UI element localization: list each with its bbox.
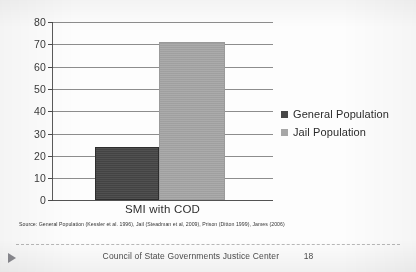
- y-axis-labels: 80 70 60 50 40 30 20 10 0: [8, 0, 46, 215]
- y-tick-label-80: 80: [12, 17, 46, 27]
- footer-divider: [16, 244, 400, 246]
- chart-legend: General Population Jail Population: [281, 108, 411, 144]
- bar-jail-population[interactable]: [159, 42, 225, 200]
- y-tick-label-30: 30: [12, 129, 46, 139]
- y-tick-label-10: 10: [12, 173, 46, 183]
- slide-canvas: 80 70 60 50 40 30 20 10 0 SMI with COD G…: [0, 0, 416, 272]
- slide-footer: Council of State Governments Justice Cen…: [0, 241, 416, 272]
- legend-label-jail-population: Jail Population: [293, 126, 366, 138]
- legend-swatch-jail-population: [281, 129, 288, 136]
- source-citation: Source: General Population (Kessler et a…: [19, 221, 399, 228]
- y-tick-label-20: 20: [12, 151, 46, 161]
- y-tick-label-40: 40: [12, 106, 46, 116]
- legend-item-general-population[interactable]: General Population: [281, 108, 411, 120]
- bar-general-population[interactable]: [95, 147, 159, 200]
- chart-bars: [52, 0, 273, 215]
- legend-label-general-population: General Population: [293, 108, 389, 120]
- footer-center-block: Council of State Governments Justice Cen…: [0, 251, 416, 261]
- y-tick-label-0: 0: [12, 195, 46, 205]
- footer-page-number: 18: [304, 251, 314, 261]
- x-axis-category-label: SMI with COD: [52, 203, 273, 215]
- legend-swatch-general-population: [281, 111, 288, 118]
- legend-item-jail-population[interactable]: Jail Population: [281, 126, 411, 138]
- y-tick-label-60: 60: [12, 62, 46, 72]
- y-tick-label-50: 50: [12, 84, 46, 94]
- y-tick-label-70: 70: [12, 39, 46, 49]
- footer-organization: Council of State Governments Justice Cen…: [103, 251, 280, 261]
